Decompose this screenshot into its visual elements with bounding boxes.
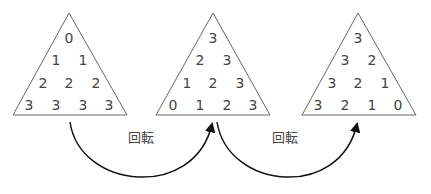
cell: 0 <box>61 30 77 46</box>
cell: 1 <box>192 97 208 113</box>
cell: 0 <box>390 97 406 113</box>
cell: 3 <box>324 75 340 91</box>
cell: 2 <box>88 75 104 91</box>
cell: 3 <box>75 97 91 113</box>
cell: 1 <box>364 97 380 113</box>
cell: 1 <box>48 52 64 68</box>
cell: 2 <box>61 75 77 91</box>
cell: 3 <box>245 97 261 113</box>
cell: 2 <box>35 75 51 91</box>
cell: 2 <box>205 75 221 91</box>
cell: 3 <box>219 52 235 68</box>
rotation-label-2: 回転 <box>272 130 298 146</box>
cell: 3 <box>48 97 64 113</box>
cell: 0 <box>165 97 181 113</box>
cell: 3 <box>232 75 248 91</box>
cell: 2 <box>219 97 235 113</box>
cell: 1 <box>377 75 393 91</box>
cell: 3 <box>101 97 117 113</box>
cell: 3 <box>337 52 353 68</box>
cell: 2 <box>350 75 366 91</box>
cell: 2 <box>337 97 353 113</box>
cell: 3 <box>310 97 326 113</box>
cell: 1 <box>179 75 195 91</box>
cell: 2 <box>364 52 380 68</box>
cell: 3 <box>205 30 221 46</box>
cell: 3 <box>350 30 366 46</box>
cell: 1 <box>75 52 91 68</box>
cell: 3 <box>21 97 37 113</box>
cell: 2 <box>192 52 208 68</box>
rotation-label-1: 回転 <box>128 130 154 146</box>
